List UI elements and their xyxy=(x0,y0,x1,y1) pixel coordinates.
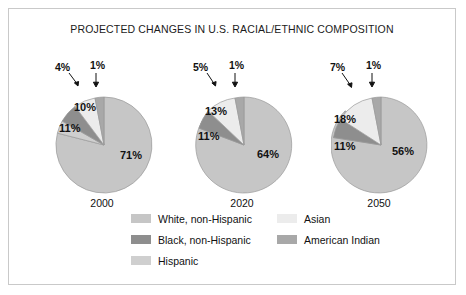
slice-value-black-2000: 11% xyxy=(59,122,80,134)
legend-label-hispanic: Hispanic xyxy=(158,255,198,267)
legend-label-white-non-hispanic: White, non-Hispanic xyxy=(158,213,252,225)
slice-value-white-2050: 56% xyxy=(392,145,414,157)
pie-year-2050: 2050 xyxy=(304,197,454,209)
leader-arrows-2050 xyxy=(324,71,404,97)
pie-chart-2000 xyxy=(54,95,154,195)
legend-label-black-non-hispanic: Black, non-Hispanic xyxy=(158,234,251,246)
legend-column-right: Asian American Indian xyxy=(277,209,380,251)
slice-value-black-2020: 11% xyxy=(198,130,219,142)
pie-svg-2000 xyxy=(54,95,154,195)
legend-item-american-indian[interactable]: American Indian xyxy=(277,230,380,247)
leader-arrows-2020 xyxy=(187,71,267,97)
pie-panel-2000: 71% 11% 10% 4% 1% 2000 xyxy=(27,9,177,199)
chart-figure: PROJECTED CHANGES IN U.S. RACIAL/ETHNIC … xyxy=(8,8,456,285)
legend-item-black-non-hispanic[interactable]: Black, non-Hispanic xyxy=(131,230,252,247)
legend-swatch-white-non-hispanic xyxy=(131,214,151,223)
slice-value-hispanic-2050: 18% xyxy=(334,113,356,125)
legend-column-left: White, non-Hispanic Black, non-Hispanic … xyxy=(131,209,252,272)
chart-legend: White, non-Hispanic Black, non-Hispanic … xyxy=(9,209,455,271)
legend-swatch-asian xyxy=(277,214,297,223)
slice-value-white-2000: 71% xyxy=(120,149,142,161)
callout-value-american-indian-2050: 1% xyxy=(366,59,381,71)
slice-value-hispanic-2020: 13% xyxy=(205,105,227,117)
pie-year-2000: 2000 xyxy=(27,197,177,209)
legend-label-asian: Asian xyxy=(304,213,330,225)
callout-value-american-indian-2020: 1% xyxy=(229,59,244,71)
legend-swatch-black-non-hispanic xyxy=(131,235,151,244)
callout-value-american-indian-2000: 1% xyxy=(90,59,105,71)
leader-arrows-2000 xyxy=(47,71,127,97)
pie-panel-2020: 64% 11% 13% 5% 1% 2020 xyxy=(167,9,317,199)
legend-item-hispanic[interactable]: Hispanic xyxy=(131,251,252,268)
legend-swatch-hispanic xyxy=(131,256,151,265)
legend-label-american-indian: American Indian xyxy=(304,234,380,246)
legend-swatch-american-indian xyxy=(277,235,297,244)
slice-value-black-2050: 11% xyxy=(334,140,355,152)
pie-slices-2000 xyxy=(56,97,152,193)
pie-panel-2050: 56% 11% 18% 7% 1% 2050 xyxy=(304,9,454,199)
slice-value-white-2020: 64% xyxy=(257,148,279,160)
pie-year-2020: 2020 xyxy=(167,197,317,209)
legend-item-asian[interactable]: Asian xyxy=(277,209,380,226)
slice-value-hispanic-2000: 10% xyxy=(74,101,96,113)
legend-item-white-non-hispanic[interactable]: White, non-Hispanic xyxy=(131,209,252,226)
